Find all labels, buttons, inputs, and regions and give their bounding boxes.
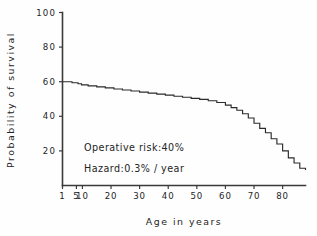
y-axis-tick-label: 40 — [43, 111, 56, 121]
annotation-hazard: Hazard:0.3% / year — [84, 163, 184, 174]
x-axis-tick-label: 1 — [59, 191, 65, 201]
survival-chart-figure: 20406080100 151020304050607080 Operative… — [0, 0, 317, 236]
x-axis-title: Age in years — [146, 216, 222, 227]
x-axis-tick-label: 30 — [133, 191, 146, 201]
y-axis-tick-label: 20 — [43, 146, 56, 156]
y-axis-tick-label: 80 — [43, 42, 56, 52]
x-axis-tick-label: 20 — [105, 191, 118, 201]
annotation-operative-risk: Operative risk:40% — [84, 142, 184, 153]
x-axis-tick-label: 10 — [76, 191, 89, 201]
x-axis-tick-label: 80 — [276, 191, 289, 201]
x-axis-tick-label: 70 — [248, 191, 261, 201]
x-axis-tick-label: 50 — [190, 191, 203, 201]
survival-curve — [63, 82, 306, 170]
y-axis-tick-labels: 20406080100 — [36, 8, 56, 156]
y-axis-tick-label: 60 — [43, 77, 56, 87]
y-axis-title: Probability of survival — [5, 32, 16, 168]
chart-canvas: 20406080100 151020304050607080 Operative… — [0, 0, 317, 236]
y-axis-tick-label: 100 — [36, 8, 56, 18]
x-axis-tick-label: 60 — [219, 191, 232, 201]
x-axis-tick-labels: 151020304050607080 — [59, 191, 289, 201]
x-axis-tick-label: 40 — [162, 191, 175, 201]
